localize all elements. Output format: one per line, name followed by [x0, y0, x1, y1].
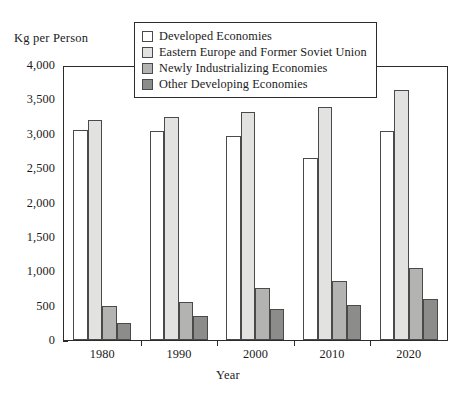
- y-tick-label: 0: [49, 333, 55, 348]
- y-axis-ticks: 05001,0001,5002,0002,5003,0003,5004,000: [0, 66, 63, 341]
- bar: [73, 130, 88, 340]
- y-tick-label: 1,500: [27, 230, 55, 245]
- bar-group: [141, 67, 218, 340]
- bar: [270, 309, 285, 340]
- bar: [88, 120, 103, 340]
- legend-swatch: [142, 79, 153, 90]
- legend-swatch: [142, 63, 153, 74]
- x-tick-label: 1990: [166, 347, 191, 362]
- bar: [332, 281, 347, 340]
- bar: [193, 316, 208, 340]
- legend-label: Other Developing Economies: [159, 77, 308, 92]
- bar: [409, 268, 424, 340]
- bar: [226, 136, 241, 340]
- bar: [347, 305, 362, 340]
- bar-group: [370, 67, 447, 340]
- legend-label: Developed Economies: [159, 29, 272, 44]
- bar: [303, 158, 318, 340]
- y-tick-label: 3,000: [27, 127, 55, 142]
- bar: [241, 112, 256, 340]
- x-axis-title: Year: [0, 368, 456, 383]
- bar: [255, 288, 270, 340]
- x-tick-mark: [141, 341, 142, 346]
- legend: Developed EconomiesEastern Europe and Fo…: [134, 22, 377, 98]
- bar: [102, 306, 117, 340]
- x-tick-label: 1980: [90, 347, 115, 362]
- bar: [394, 90, 409, 340]
- legend-swatch: [142, 31, 153, 42]
- y-tick-label: 500: [36, 299, 55, 314]
- y-tick-label: 1,000: [27, 264, 55, 279]
- bar: [150, 131, 165, 340]
- bar: [117, 323, 132, 340]
- x-tick-mark: [294, 341, 295, 346]
- bar-group: [217, 67, 294, 340]
- bar: [164, 117, 179, 340]
- bar: [423, 299, 438, 340]
- x-tick-label: 2000: [243, 347, 268, 362]
- y-tick-label: 3,500: [27, 92, 55, 107]
- legend-label: Eastern Europe and Former Soviet Union: [159, 45, 367, 60]
- legend-item: Other Developing Economies: [142, 76, 367, 92]
- bar: [380, 131, 395, 340]
- x-tick-mark: [370, 341, 371, 346]
- x-tick-label: 2010: [320, 347, 345, 362]
- y-tick-label: 2,000: [27, 196, 55, 211]
- legend-item: Newly Industrializing Economies: [142, 60, 367, 76]
- bar: [179, 302, 194, 340]
- bar-group: [64, 67, 141, 340]
- x-tick-label: 2020: [396, 347, 421, 362]
- y-tick-label: 4,000: [27, 58, 55, 73]
- legend-item: Developed Economies: [142, 28, 367, 44]
- bars-container: [64, 67, 447, 340]
- legend-item: Eastern Europe and Former Soviet Union: [142, 44, 367, 60]
- bar-group: [294, 67, 371, 340]
- y-tick-label: 2,500: [27, 161, 55, 176]
- y-axis-title: Kg per Person: [14, 31, 88, 46]
- x-axis-ticks: 19801990200020102020: [64, 341, 447, 367]
- legend-swatch: [142, 47, 153, 58]
- bar-chart: Kg per Person 05001,0001,5002,0002,5003,…: [0, 0, 456, 398]
- legend-label: Newly Industrializing Economies: [159, 61, 327, 76]
- bar: [318, 107, 333, 340]
- x-tick-mark: [217, 341, 218, 346]
